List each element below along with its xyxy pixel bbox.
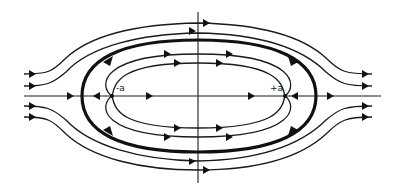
arrow-icon <box>189 27 196 35</box>
arrow-icon <box>216 124 223 132</box>
arrow-icon <box>29 102 36 110</box>
arrow-icon <box>67 92 74 100</box>
arrow-icon <box>29 70 36 78</box>
arrow-icon <box>164 133 171 141</box>
arrow-icon <box>146 92 153 100</box>
arrow-icon <box>248 92 255 100</box>
arrow-icon <box>203 19 210 27</box>
arrow-icon <box>226 133 233 141</box>
arrow-icon <box>174 59 181 67</box>
arrow-icon <box>164 50 171 58</box>
arrow-icon <box>327 92 334 100</box>
label-plus-a: +a <box>270 83 283 93</box>
arrow-icon <box>189 158 196 165</box>
arrow-icon <box>362 102 369 110</box>
arrow-icon <box>203 166 210 174</box>
arrow-icon <box>174 124 181 132</box>
arrow-icon <box>291 92 298 100</box>
arrow-icon <box>362 70 369 78</box>
arrow-icon <box>29 82 36 90</box>
streamline-figure <box>0 0 393 193</box>
arrow-icon <box>226 50 233 58</box>
label-minus-a: -a <box>116 83 125 93</box>
stagnation-point-minus-a <box>110 94 114 98</box>
arrow-icon <box>93 92 100 100</box>
rankine-oval-diagram: -a +a <box>0 0 393 193</box>
stagnation-point-plus-a <box>283 94 287 98</box>
arrow-icon <box>29 113 36 121</box>
arrow-icon <box>362 113 369 121</box>
arrow-icon <box>362 82 369 90</box>
arrow-icon <box>216 59 223 67</box>
